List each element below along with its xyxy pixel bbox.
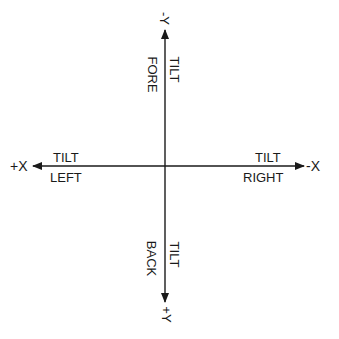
axis-label-pos-x: +X (10, 160, 28, 173)
axis-label-pos-y: +Y (160, 306, 173, 322)
tilt-left-line1: TILT (53, 151, 79, 164)
tilt-back-line1: TILT (168, 242, 181, 268)
axis-label-neg-x: -X (306, 160, 320, 173)
axis-label-neg-y: -Y (158, 12, 171, 25)
tilt-fore-line1: TILT (168, 57, 181, 83)
tilt-right-line2: RIGHT (243, 171, 283, 184)
tilt-right-line1: TILT (255, 151, 281, 164)
tilt-left-line2: LEFT (50, 171, 82, 184)
tilt-back-line2: BACK (145, 241, 158, 276)
tilt-fore-line2: FORE (146, 56, 159, 92)
